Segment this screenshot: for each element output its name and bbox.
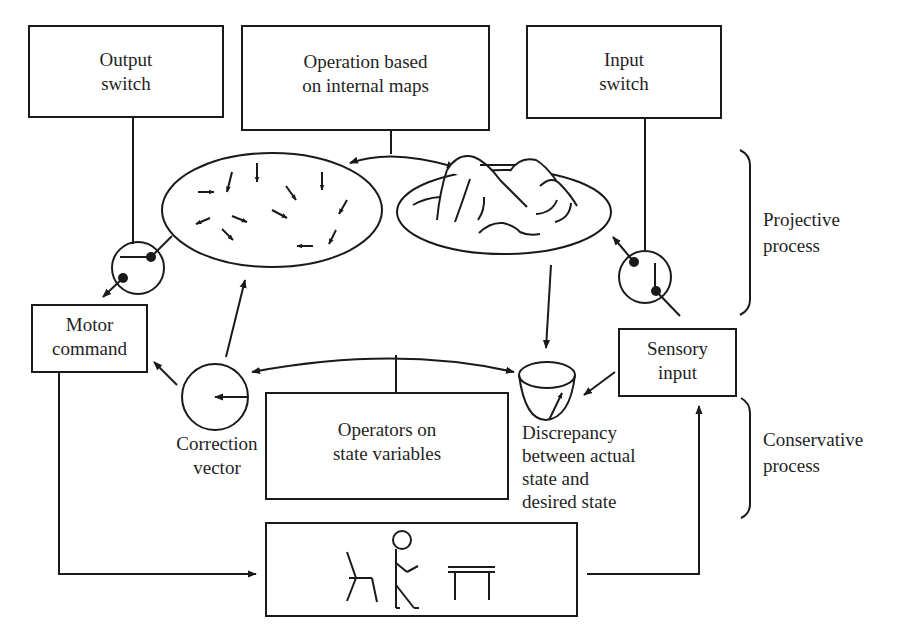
correction-line1: Correction xyxy=(152,432,282,456)
vector-field-arrows xyxy=(196,163,347,246)
conservative-line1: Conservative xyxy=(763,427,863,453)
operation-line1: Operation based xyxy=(242,50,489,74)
projective-line2: process xyxy=(763,233,840,259)
operation-double-arrow xyxy=(350,156,455,167)
correction-vector-label: Correction vector xyxy=(152,432,282,480)
input-switch-label: Input switch xyxy=(527,48,721,96)
output-switch-line1: Output xyxy=(29,48,223,72)
output-switch-line2: switch xyxy=(29,72,223,96)
discrepancy-line4: desired state xyxy=(522,490,635,513)
terrain-mountains xyxy=(447,156,577,207)
input-switch-line1: Input xyxy=(527,48,721,72)
motor-command-line2: command xyxy=(32,337,147,361)
discrepancy-line2: between actual xyxy=(522,444,635,467)
output-switch-label: Output switch xyxy=(29,48,223,96)
projective-bracket xyxy=(740,150,750,315)
stick-figure-icon xyxy=(393,531,419,608)
sensory-input-line1: Sensory xyxy=(619,337,736,361)
discrepancy-line3: state and xyxy=(522,467,635,490)
discrepancy-label: Discrepancy between actual state and des… xyxy=(522,421,635,513)
correction-line2: vector xyxy=(152,456,282,480)
operators-line2: state variables xyxy=(266,442,508,466)
conservative-line2: process xyxy=(763,453,863,479)
projective-process-label: Projective process xyxy=(763,207,840,259)
operators-line1: Operators on xyxy=(266,418,508,442)
discrepancy-line1: Discrepancy xyxy=(522,421,635,444)
projective-line1: Projective xyxy=(763,207,840,233)
discrepancy-bowl xyxy=(519,362,575,420)
conservative-bracket xyxy=(741,398,750,518)
environment-box xyxy=(266,523,577,616)
output-switch-circle xyxy=(112,242,164,294)
input-switch-circle xyxy=(619,251,671,303)
input-switch-line2: switch xyxy=(527,72,721,96)
table-icon xyxy=(448,567,495,600)
operation-line2: on internal maps xyxy=(242,74,489,98)
operation-label: Operation based on internal maps xyxy=(242,50,489,98)
motor-command-label: Motor command xyxy=(32,313,147,361)
conservative-process-label: Conservative process xyxy=(763,427,863,479)
motor-command-line1: Motor xyxy=(32,313,147,337)
sensory-input-line2: input xyxy=(619,361,736,385)
chair-icon xyxy=(347,552,377,602)
operators-double-arrow xyxy=(252,359,514,373)
sensory-input-label: Sensory input xyxy=(619,337,736,385)
operators-label: Operators on state variables xyxy=(266,418,508,466)
